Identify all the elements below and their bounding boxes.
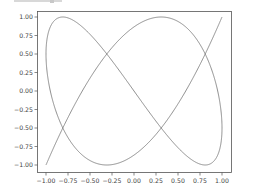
y-tick-label: −0.50 <box>14 124 33 131</box>
y-tick-label: 1.00 <box>19 13 33 20</box>
x-axis: −1.00−0.75−0.50−0.250.000.250.500.751.00 <box>37 173 229 185</box>
lissajous-line <box>46 17 222 165</box>
y-tick-label: 0.25 <box>19 69 33 76</box>
x-tick-label: −0.25 <box>103 177 122 184</box>
x-tick-label: −1.00 <box>37 177 56 184</box>
y-axis: 1.000.750.500.250.00−0.25−0.50−0.75−1.00 <box>14 13 37 168</box>
y-tick-label: 0.75 <box>19 32 33 39</box>
y-tick-label: 0.00 <box>19 87 33 94</box>
y-tick-label: −0.25 <box>14 106 33 113</box>
x-tick-label: 0.75 <box>193 177 207 184</box>
y-tick-label: −0.75 <box>14 143 33 150</box>
y-tick-label: 0.50 <box>19 50 33 57</box>
x-tick-label: 0.25 <box>149 177 163 184</box>
x-tick-label: 1.00 <box>215 177 229 184</box>
x-tick-label: −0.50 <box>81 177 100 184</box>
y-tick-label: −1.00 <box>14 161 33 168</box>
lissajous-chart: −1.00−0.75−0.50−0.250.000.250.500.751.00… <box>0 0 261 195</box>
x-tick-label: 0.00 <box>127 177 141 184</box>
plot-area <box>46 17 222 165</box>
x-tick-label: −0.75 <box>59 177 78 184</box>
x-tick-label: 0.50 <box>171 177 185 184</box>
